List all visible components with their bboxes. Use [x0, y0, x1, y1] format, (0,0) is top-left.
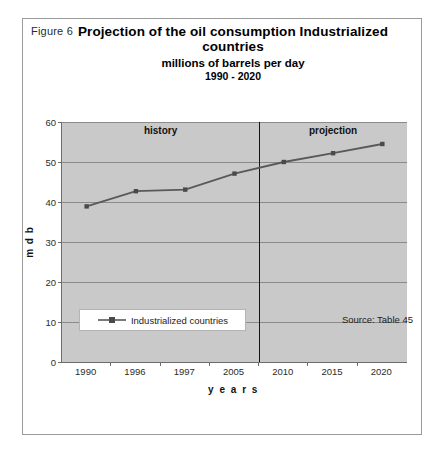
y-axis-tick-label: 20	[16, 277, 61, 288]
x-axis-title: y e a r s	[61, 384, 406, 395]
x-axis-tick-mark	[258, 362, 259, 366]
chart-title-line-2: countries	[53, 39, 413, 54]
data-point-marker	[232, 171, 236, 175]
y-axis-tick-mark	[58, 282, 61, 283]
legend-item-industrialized-countries: Industrialized countries	[97, 315, 228, 326]
y-axis-tick-mark	[58, 202, 61, 203]
chart-date-range: 1990 - 2020	[53, 70, 413, 83]
figure-container: Figure 6 Projection of the oil consumpti…	[22, 18, 422, 435]
y-axis-tick-label: 0	[16, 357, 61, 368]
data-point-marker	[282, 160, 286, 164]
y-axis-tick-label: 40	[16, 197, 61, 208]
y-axis-tick-mark	[58, 162, 61, 163]
chart-title-block: Projection of the oil consumption Indust…	[53, 24, 413, 83]
x-axis-tick-mark	[307, 362, 308, 366]
x-axis-tick-label: 2020	[351, 366, 411, 377]
x-axis-tick-mark	[357, 362, 358, 366]
y-axis-tick-mark	[58, 322, 61, 323]
y-axis-tick-label: 60	[16, 117, 61, 128]
y-axis-tick-mark	[58, 362, 61, 363]
chart-subtitle: millions of barrels per day	[53, 56, 413, 70]
legend-line-marker-icon	[97, 315, 127, 325]
x-axis-tick-mark	[160, 362, 161, 366]
legend-label: Industrialized countries	[131, 315, 228, 326]
x-axis-tick-mark	[110, 362, 111, 366]
y-axis-tick-label: 30	[16, 237, 61, 248]
chart-legend: Industrialized countries	[79, 309, 246, 331]
source-note: Source: Table 45	[342, 314, 413, 325]
y-axis-tick-mark	[58, 242, 61, 243]
data-point-marker	[183, 187, 187, 191]
x-axis-tick-mark	[209, 362, 210, 366]
y-axis-tick-mark	[58, 122, 61, 123]
y-axis-tick-label: 50	[16, 157, 61, 168]
data-point-marker	[380, 142, 384, 146]
data-point-marker	[331, 151, 335, 155]
y-axis-tick-label: 10	[16, 317, 61, 328]
data-point-marker	[84, 204, 88, 208]
data-point-marker	[134, 189, 138, 193]
chart-title-line-1: Projection of the oil consumption Indust…	[53, 24, 413, 39]
